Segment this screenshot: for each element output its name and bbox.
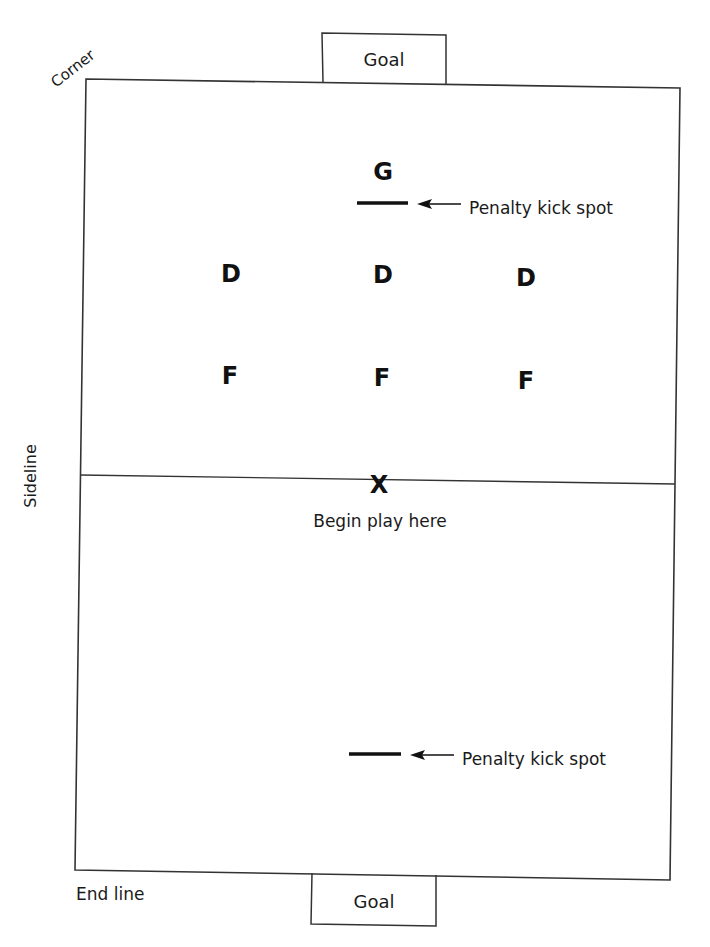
goal-bottom-label: Goal xyxy=(354,891,395,912)
soccer-field-diagram: Goal Goal Corner Sideline End line G Pen… xyxy=(0,0,710,947)
corner-label: Corner xyxy=(47,45,98,91)
defender-marker-center: D xyxy=(373,261,393,289)
goalie-marker: G xyxy=(373,158,393,186)
goal-top-label: Goal xyxy=(364,49,405,70)
penalty-spot-top-label: Penalty kick spot xyxy=(469,198,613,218)
forward-marker-left: F xyxy=(222,362,238,390)
begin-play-label: Begin play here xyxy=(313,511,447,531)
defender-marker-left: D xyxy=(221,260,241,288)
center-mark: X xyxy=(370,471,389,499)
sideline-label: Sideline xyxy=(21,444,40,507)
defender-marker-right: D xyxy=(516,264,536,292)
end-line-label: End line xyxy=(76,884,144,904)
forward-marker-center: F xyxy=(374,364,390,392)
forward-marker-right: F xyxy=(518,367,534,395)
penalty-spot-bottom-label: Penalty kick spot xyxy=(462,749,606,769)
